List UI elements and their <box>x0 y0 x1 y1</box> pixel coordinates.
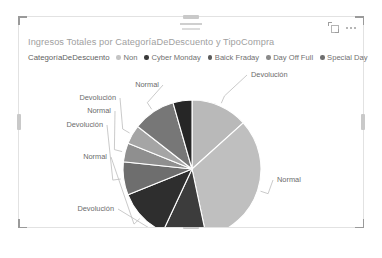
legend-swatch-icon <box>144 55 149 60</box>
pie-data-label: Devolución <box>79 93 116 102</box>
legend-swatch-icon <box>208 55 213 60</box>
pie-data-label: Normal <box>83 152 107 161</box>
legend-title: CategoríaDeDescuento <box>28 53 109 62</box>
pie-data-label: Devolución <box>251 70 288 79</box>
pie-data-label: Normal <box>135 80 159 89</box>
pie-data-label: Devolución <box>66 120 103 129</box>
label-leader-line <box>120 98 130 133</box>
legend-swatch-icon <box>116 55 121 60</box>
pie-data-label: Devolución <box>77 204 114 213</box>
legend-item-label: Day Off Full <box>273 53 313 62</box>
focus-mode-icon[interactable] <box>328 22 339 33</box>
legend-item-non[interactable]: Non <box>116 53 137 62</box>
chart-visual-container[interactable]: Ingresos Totales por CategoríaDeDescuent… <box>18 16 364 228</box>
pie-chart-svg[interactable]: DevoluciónNormalDevoluciónNormalDevoluci… <box>19 65 363 227</box>
page-title: Ingresos Totales por CategoríaDeDescuent… <box>28 37 274 47</box>
selection-handle-top-right[interactable] <box>355 16 364 25</box>
label-leader-line <box>261 180 274 194</box>
legend-item-cyber-monday[interactable]: Cyber Monday <box>144 53 200 62</box>
label-leader-line <box>221 75 247 103</box>
label-leader-line <box>114 111 122 152</box>
legend-item-special-day[interactable]: Special Day <box>320 53 368 62</box>
legend-item-label: Cyber Monday <box>151 53 200 62</box>
legend-swatch-icon <box>320 55 325 60</box>
more-options-icon[interactable] <box>346 22 356 33</box>
legend-swatch-icon <box>266 55 271 60</box>
drag-grip-icon[interactable] <box>180 23 202 32</box>
visual-header-actions[interactable] <box>328 22 356 33</box>
legend-item-day-off-full[interactable]: Day Off Full <box>266 53 313 62</box>
selection-handle-top-left[interactable] <box>18 16 27 25</box>
legend-item-label: Non <box>123 53 137 62</box>
legend: CategoríaDeDescuento Non Cyber Monday Ba… <box>28 53 375 62</box>
drag-handle-top[interactable] <box>183 15 199 19</box>
legend-item-baick-fraday[interactable]: Baick Fraday <box>208 53 259 62</box>
pie-chart-plot-area[interactable]: DevoluciónNormalDevoluciónNormalDevoluci… <box>19 65 363 227</box>
pie-data-label: Normal <box>87 106 111 115</box>
pie-data-label: Normal <box>277 175 301 184</box>
label-leader-line <box>107 125 121 180</box>
legend-item-label: Special Day <box>327 53 368 62</box>
legend-item-label: Baick Fraday <box>215 53 259 62</box>
